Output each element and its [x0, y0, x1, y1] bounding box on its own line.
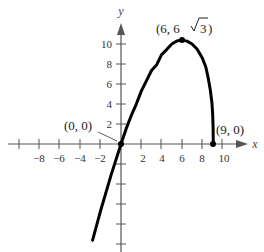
y-tick-label: 10	[101, 38, 113, 50]
x-tick-label: −2	[94, 152, 106, 164]
end-point-label: (9, 0)	[216, 122, 244, 137]
x-axis: −8 −6 −4 −2 2 4 6 8 10 x	[8, 137, 258, 164]
origin-leader-line	[98, 132, 117, 141]
x-tick-label: −4	[74, 152, 86, 164]
x-tick-label: 10	[219, 152, 231, 164]
function-curve	[93, 40, 214, 240]
x-axis-arrow-icon	[236, 140, 248, 148]
peak-point-label: (6, 6 3 )	[156, 18, 212, 36]
x-axis-label: x	[251, 137, 258, 151]
y-tick-label: 4	[107, 98, 113, 110]
x-tick-label: −8	[33, 152, 45, 164]
peak-label-radicand: 3	[200, 21, 207, 36]
origin-point	[118, 141, 124, 147]
chart: −8 −6 −4 −2 2 4 6 8 10 x 2 4 6 8 10 y	[0, 0, 264, 252]
y-axis-label: y	[117, 4, 124, 18]
peak-label-prefix: (6, 6	[156, 21, 180, 36]
origin-point-label: (0, 0)	[64, 118, 92, 133]
x-tick-label: 6	[179, 152, 185, 164]
peak-point	[179, 37, 185, 43]
y-axis: 2 4 6 8 10 y	[101, 4, 126, 252]
x-tick-label: 4	[159, 152, 165, 164]
y-tick-label: 6	[107, 78, 113, 90]
y-tick-label: 8	[107, 58, 113, 70]
x-tick-label: −6	[53, 152, 65, 164]
svg-text:(6, 6: (6, 6	[156, 21, 180, 36]
peak-label-suffix: )	[208, 21, 212, 36]
end-point	[210, 141, 216, 147]
x-tick-label: 2	[140, 152, 146, 164]
y-axis-arrow-icon	[117, 23, 125, 35]
x-tick-label: 8	[199, 152, 205, 164]
y-tick-label: 2	[107, 118, 113, 130]
